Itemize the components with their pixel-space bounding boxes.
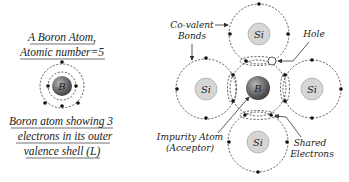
hole-label: Hole — [278, 29, 325, 61]
electron — [74, 84, 78, 88]
svg-text:(Acceptor): (Acceptor) — [166, 143, 215, 153]
si-atom-bottom: Si — [247, 131, 269, 153]
si-atom-right: Si — [301, 78, 323, 100]
boron-impurity-atom: B — [246, 76, 270, 100]
svg-text:Co-valent: Co-valent — [170, 20, 214, 30]
svg-text:Shared: Shared — [294, 138, 327, 148]
covalent-bonds-label: Co-valent Bonds — [170, 20, 228, 60]
title-line-2: Atomic number=5 — [19, 46, 104, 58]
electron — [60, 60, 64, 64]
caption-line-2: electrons in its outer — [18, 130, 113, 142]
si-symbol: Si — [254, 29, 264, 40]
boron-symbol: B — [57, 81, 65, 92]
si-atom-top: Si — [248, 23, 270, 45]
electron — [76, 101, 80, 105]
title-line-1: A Boron Atom, — [27, 31, 96, 44]
boron-atom: B — [40, 60, 84, 108]
shared-electrons-label: Shared Electrons — [275, 116, 334, 159]
electron — [60, 104, 64, 108]
si-atom-left: Si — [195, 78, 217, 100]
svg-text:Electrons: Electrons — [289, 149, 334, 159]
electron — [43, 101, 47, 105]
electron — [46, 84, 50, 88]
silicon-lattice-panel: Si Si Si Si B — [156, 2, 343, 174]
boron-atom-panel: A Boron Atom, Atomic number=5 B Boron at… — [9, 31, 113, 158]
caption-line-1: Boron atom showing 3 — [9, 115, 113, 128]
si-symbol: Si — [201, 84, 211, 95]
caption-line-3: valence shell (L) — [24, 145, 101, 158]
boron-doping-diagram: A Boron Atom, Atomic number=5 B Boron at… — [0, 0, 349, 182]
hole-marker — [268, 57, 276, 65]
boron-symbol: B — [253, 83, 261, 94]
svg-text:Hole: Hole — [302, 29, 324, 39]
si-symbol: Si — [253, 137, 263, 148]
svg-text:Impurity Atom: Impurity Atom — [156, 132, 223, 142]
impurity-atom-label: Impurity Atom (Acceptor) — [156, 97, 249, 153]
si-symbol: Si — [307, 84, 317, 95]
svg-text:Bonds: Bonds — [177, 31, 207, 41]
